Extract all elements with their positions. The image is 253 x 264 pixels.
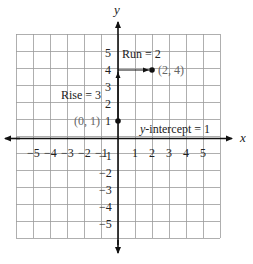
x-tick-label: −2 — [78, 146, 91, 160]
x-tick-label: 3 — [166, 146, 172, 160]
y-tick-label: 5 — [105, 46, 111, 60]
y-tick-label: −3 — [99, 183, 112, 197]
x-tick-label: 1 — [132, 146, 138, 160]
run-label: Run = 2 — [122, 47, 161, 61]
y-tick-label: −2 — [99, 166, 112, 180]
point-2-4 — [149, 67, 155, 73]
x-tick-label: 4 — [183, 146, 189, 160]
x-tick-labels: −5 −4 −3 −2 −1 1 2 3 4 5 — [27, 146, 206, 160]
coordinate-plane: x y −5 −4 −3 −2 −1 1 2 3 4 5 5 4 3 2 1 −… — [0, 0, 253, 264]
y-tick-label: 2 — [105, 97, 111, 111]
y-tick-label: −4 — [99, 200, 112, 214]
y-tick-label: −1 — [99, 149, 112, 163]
x-tick-label: −5 — [27, 146, 40, 160]
point-0-1 — [115, 118, 121, 124]
y-tick-label: 4 — [105, 63, 111, 77]
point-a-label: (0, 1) — [74, 114, 100, 128]
x-tick-label: 5 — [200, 146, 206, 160]
y-tick-label: 3 — [105, 80, 111, 94]
x-tick-label: −4 — [44, 146, 57, 160]
rise-label: Rise = 3 — [61, 88, 101, 102]
y-tick-label: −5 — [99, 217, 112, 231]
y-intercept-label: y-intercept = 1 — [139, 122, 210, 136]
y-axis-label: y — [112, 2, 120, 17]
x-tick-label: 2 — [149, 146, 155, 160]
x-tick-label: −3 — [61, 146, 74, 160]
x-axis-label: x — [239, 130, 246, 145]
y-tick-label: 1 — [105, 114, 111, 128]
point-b-label: (2, 4) — [158, 63, 184, 77]
y-intercept-rest: -intercept = 1 — [145, 122, 210, 136]
